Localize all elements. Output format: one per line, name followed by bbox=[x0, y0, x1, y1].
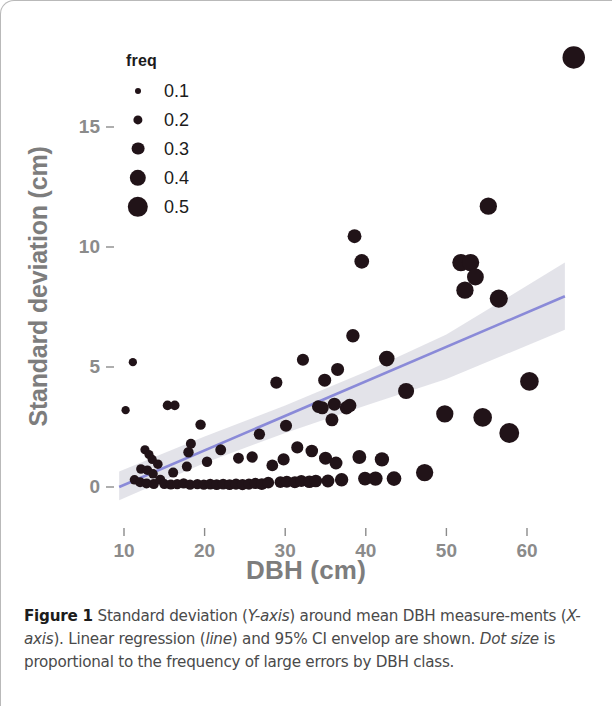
figure-caption-label: Figure 1 bbox=[24, 607, 93, 625]
y-tick-label: 15 bbox=[52, 116, 100, 138]
data-point bbox=[416, 464, 433, 481]
legend-rows: 0.10.20.30.40.5 bbox=[118, 76, 238, 221]
figure-caption-body: Standard deviation (Y-axis) around mean … bbox=[24, 607, 580, 671]
data-point bbox=[280, 420, 292, 432]
legend-entry-label: 0.3 bbox=[164, 138, 189, 159]
figure-caption: Figure 1 Standard deviation (Y-axis) aro… bbox=[24, 605, 590, 674]
size-legend: freq 0.10.20.30.40.5 bbox=[118, 52, 238, 221]
legend-title: freq bbox=[126, 52, 238, 70]
data-point bbox=[398, 383, 414, 399]
data-point bbox=[343, 399, 356, 412]
legend-entry-label: 0.4 bbox=[164, 167, 189, 188]
data-point bbox=[278, 453, 290, 465]
legend-dot-icon bbox=[130, 169, 146, 185]
data-point bbox=[270, 377, 282, 389]
data-point bbox=[168, 468, 178, 478]
data-point bbox=[387, 471, 402, 486]
caption-segment: Dot size bbox=[480, 630, 539, 648]
data-point bbox=[318, 374, 331, 387]
data-point bbox=[215, 444, 226, 455]
data-point bbox=[490, 290, 508, 308]
legend-dot-icon bbox=[133, 115, 142, 124]
data-point bbox=[233, 453, 244, 464]
data-point bbox=[297, 354, 309, 366]
legend-entry: 0.2 bbox=[118, 105, 238, 134]
caption-segment: Standard deviation ( bbox=[93, 607, 248, 625]
data-point bbox=[473, 408, 492, 427]
legend-swatch bbox=[118, 105, 158, 134]
caption-segment: line bbox=[205, 630, 231, 648]
legend-dot-icon bbox=[135, 88, 141, 94]
legend-entry: 0.4 bbox=[118, 163, 238, 192]
data-point bbox=[328, 398, 341, 411]
legend-dot-icon bbox=[132, 142, 145, 155]
data-point bbox=[202, 457, 212, 467]
data-point bbox=[310, 475, 323, 488]
data-point bbox=[121, 406, 129, 414]
caption-segment: ments ( bbox=[510, 607, 567, 625]
legend-dot-icon bbox=[128, 196, 148, 216]
legend-swatch bbox=[118, 134, 158, 163]
caption-segment: ) around mean DBH measure- bbox=[289, 607, 509, 625]
y-axis-title: Standard deviation (cm) bbox=[24, 107, 53, 467]
data-point bbox=[247, 451, 258, 462]
plot-canvas bbox=[0, 0, 612, 600]
scatter-plot: 102030405060051015 Standard deviation (c… bbox=[0, 0, 612, 600]
legend-entry-label: 0.1 bbox=[164, 80, 189, 101]
caption-segment: ) and 95% CI envelop are shown. bbox=[232, 630, 480, 648]
data-point bbox=[375, 452, 389, 466]
legend-swatch bbox=[118, 192, 158, 221]
data-point bbox=[520, 372, 539, 391]
data-point bbox=[346, 329, 359, 342]
legend-entry: 0.1 bbox=[118, 76, 238, 105]
data-point bbox=[462, 254, 479, 271]
y-tick-label: 0 bbox=[52, 476, 100, 498]
data-point bbox=[335, 473, 348, 486]
data-point bbox=[306, 445, 319, 458]
data-point bbox=[368, 471, 382, 485]
legend-swatch bbox=[118, 163, 158, 192]
legend-swatch bbox=[118, 76, 158, 105]
data-point bbox=[348, 229, 362, 243]
x-axis-title: DBH (cm) bbox=[0, 555, 612, 586]
data-point bbox=[170, 401, 180, 411]
data-point bbox=[354, 254, 369, 269]
data-point bbox=[379, 351, 395, 367]
data-point bbox=[186, 439, 196, 449]
data-point bbox=[563, 46, 585, 68]
y-tick-label: 10 bbox=[52, 236, 100, 258]
data-point bbox=[480, 198, 497, 215]
data-point bbox=[316, 401, 329, 414]
regression-line-segment bbox=[119, 296, 565, 487]
caption-segment: Y-axis bbox=[248, 607, 290, 625]
legend-entry: 0.3 bbox=[118, 134, 238, 163]
data-point bbox=[129, 358, 137, 366]
data-point bbox=[254, 429, 265, 440]
data-point bbox=[195, 419, 205, 429]
data-point bbox=[291, 441, 303, 453]
legend-entry: 0.5 bbox=[118, 192, 238, 221]
data-point bbox=[467, 269, 484, 286]
legend-entry-label: 0.5 bbox=[164, 196, 189, 217]
data-point bbox=[153, 459, 163, 469]
regression-line bbox=[119, 296, 565, 487]
data-point bbox=[266, 460, 278, 472]
data-point bbox=[325, 413, 338, 426]
data-point bbox=[331, 363, 344, 376]
data-point bbox=[436, 405, 453, 422]
caption-segment: ). Linear regression ( bbox=[53, 630, 205, 648]
data-point bbox=[499, 423, 519, 443]
data-point bbox=[182, 462, 192, 472]
data-point bbox=[329, 457, 342, 470]
data-point bbox=[352, 450, 366, 464]
legend-entry-label: 0.2 bbox=[164, 109, 189, 130]
data-point bbox=[321, 475, 334, 488]
data-point bbox=[262, 477, 274, 489]
y-tick-label: 5 bbox=[52, 356, 100, 378]
